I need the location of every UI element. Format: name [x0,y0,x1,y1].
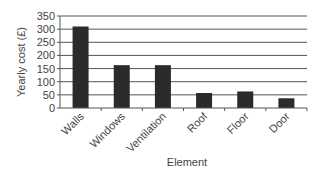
x-axis [60,16,307,111]
y-axis-title: Yearly cost (£) [15,27,27,97]
x-tick-label: Roof [185,109,211,135]
y-tick-label: 300 [37,23,55,35]
y-tick-label: 50 [43,89,55,101]
x-tick-label: Door [266,110,292,136]
bar-floor [237,91,253,108]
bar-ventilation [155,65,171,108]
bar-chart: 050100150200250300350 WallsWindowsVentil… [0,0,322,177]
bar-windows [114,65,130,108]
bar-door [278,98,294,108]
y-tick-label: 0 [49,102,55,114]
x-tick-label: Floor [224,110,250,136]
y-tick-label: 150 [37,63,55,75]
x-axis-tick-labels: WallsWindowsVentilationRoofFloorDoor [59,109,292,154]
x-tick-label: Windows [87,110,127,150]
y-tick-label: 200 [37,49,55,61]
x-tick-label: Walls [59,110,87,138]
bar-walls [73,27,89,108]
y-axis-ticks: 050100150200250300350 [37,10,55,114]
gridlines [57,16,307,108]
y-tick-label: 250 [37,36,55,48]
y-tick-label: 100 [37,76,55,88]
y-tick-label: 350 [37,10,55,22]
x-axis-title: Element [167,156,207,168]
x-tick-label: Ventilation [124,110,168,154]
bar-roof [196,93,212,108]
bars [73,27,295,108]
